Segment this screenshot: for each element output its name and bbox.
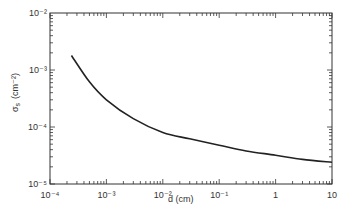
y-tick-label: 10⁻⁵	[28, 179, 47, 189]
x-tick-label: 1	[273, 190, 278, 200]
plot-frame	[50, 13, 332, 184]
axis-ticks	[50, 13, 332, 184]
x-tick-label: 10⁻⁴	[41, 190, 60, 200]
y-tick-label: 10⁻²	[29, 8, 47, 18]
y-tick-label: 10⁻⁴	[28, 122, 47, 132]
svg-text:σs(cm⁻²): σs(cm⁻²)	[10, 73, 21, 112]
x-tick-label: 10	[327, 190, 337, 200]
x-tick-label: 10⁻¹	[210, 190, 228, 200]
y-tick-label: 10⁻³	[29, 65, 47, 75]
tick-labels: 10⁻⁴10⁻³10⁻²10⁻¹11010⁻⁵10⁻⁴10⁻³10⁻²	[28, 8, 337, 200]
data-curve	[71, 55, 332, 162]
chart: 10⁻⁴10⁻³10⁻²10⁻¹11010⁻⁵10⁻⁴10⁻³10⁻² d (c…	[0, 0, 350, 211]
x-tick-label: 10⁻³	[97, 190, 115, 200]
y-axis-label: σs(cm⁻²)	[10, 73, 21, 112]
x-axis-label: d (cm)	[168, 194, 194, 204]
